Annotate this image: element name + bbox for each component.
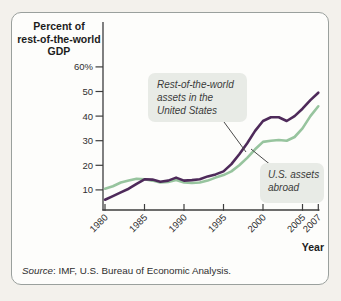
y-tick-label: 10 [82,184,93,195]
x-tick-label: 2007 [300,212,323,235]
annotation-pointer-line [224,122,246,152]
annotation-text-line: assets in the [157,91,247,104]
x-tick-label: 2000 [245,212,268,235]
y-axis-title-line: Percent of [12,20,106,33]
annotation-text-line: Rest-of-the-world [157,78,247,91]
x-tick-label: 1990 [166,212,189,235]
y-axis-title-line: rest-of-the-world [12,33,106,46]
y-tick-label: 20 [82,160,93,171]
x-tick-label: 1995 [206,212,229,235]
annotation-text-line: United States [157,104,247,117]
y-axis-title-line: GDP [12,45,106,58]
figure-panel: 60%5040302010198019851990199520002005200… [0,0,341,301]
annotation-row-assets-in-us: Rest-of-the-world assets in the United S… [148,73,247,122]
x-axis-title: Year [290,241,324,253]
source-note: Source: IMF, U.S. Bureau of Economic Ana… [22,265,231,276]
annotation-text-line: U.S. assets [268,168,324,181]
y-tick-label: 40 [82,111,93,122]
annotation-us-assets-abroad: U.S. assets abroad [260,163,324,203]
y-tick-label: 30 [82,135,93,146]
y-tick-label: 50 [82,86,93,97]
annotation-text-line: abroad [268,181,324,194]
source-word: Source [22,265,53,276]
source-text: : IMF, U.S. Bureau of Economic Analysis. [53,265,231,276]
y-axis-title: Percent of rest-of-the-world GDP [12,20,106,58]
y-tick-label: 60% [74,61,94,72]
x-tick-label: 1980 [87,212,110,235]
x-tick-label: 1985 [127,212,150,235]
